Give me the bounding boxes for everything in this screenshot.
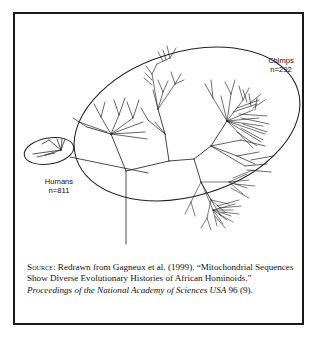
lower-right-branches	[185, 170, 255, 230]
chimps-label-count: n=292	[253, 65, 309, 74]
right-middle-branches	[211, 140, 273, 172]
humans-group-ellipse	[22, 134, 76, 168]
figure-caption: Source: Redrawn from Gagneux et al. (199…	[27, 262, 295, 296]
caption-journal-name: Proceedings of the National Academy of S…	[27, 285, 226, 295]
humans-label-name: Humans	[29, 177, 89, 186]
figure-root: Chimps n=292 Humans n=811 Source: Redraw…	[0, 0, 318, 340]
chimps-group-label: Chimps n=292	[253, 56, 309, 74]
figure-frame: Chimps n=292 Humans n=811 Source: Redraw…	[13, 12, 304, 325]
humans-group-label: Humans n=811	[29, 177, 89, 195]
upper-left-branches	[73, 98, 165, 139]
caption-volume-issue: 96 (9).	[226, 285, 253, 295]
humans-label-count: n=811	[29, 186, 89, 195]
chimps-label-name: Chimps	[253, 56, 309, 65]
caption-source-label: Source	[27, 262, 53, 272]
caption-body: Redrawn from Gagneux et al. (1999). “Mit…	[27, 262, 293, 283]
tree-diagram	[15, 14, 306, 259]
human-subtree	[33, 139, 65, 157]
tree-backbone	[87, 109, 227, 200]
phylogenetic-tree-svg	[15, 14, 306, 259]
upper-right-branches	[205, 80, 269, 148]
